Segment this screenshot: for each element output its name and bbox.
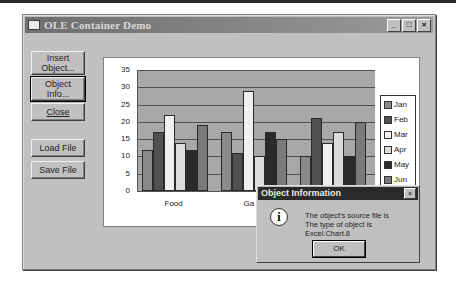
dialog-close-button[interactable]: × [404, 188, 416, 199]
legend-label: Apr [394, 145, 406, 154]
maximize-button[interactable]: □ [402, 19, 416, 32]
insert-object-label-1: Insert [47, 53, 70, 63]
legend-label: Jun [394, 175, 407, 184]
chart-bar [186, 150, 197, 191]
object-info-label-2: Info... [47, 89, 70, 99]
legend-item: Jan [384, 98, 415, 111]
x-category-label: Food [165, 199, 183, 208]
title-bar[interactable]: OLE Container Demo _ □ × [25, 17, 433, 33]
close-label: Close [46, 107, 69, 117]
legend-swatch [384, 146, 392, 154]
chart-bar [265, 132, 276, 191]
y-tick-label: 0 [110, 186, 130, 195]
legend-item: Feb [384, 113, 415, 126]
object-info-label-1: Object [45, 79, 71, 89]
legend-swatch [384, 161, 392, 169]
legend-item: Apr [384, 143, 415, 156]
legend-label: Mar [394, 130, 408, 139]
save-file-button[interactable]: Save File [31, 161, 85, 179]
gridline [138, 87, 375, 88]
chart-bar [221, 132, 232, 191]
legend-item: May [384, 158, 415, 171]
legend-label: May [394, 160, 409, 169]
x-category-label: Ga [244, 199, 255, 208]
gridline [138, 105, 375, 106]
chart-plot-area [137, 70, 375, 192]
dialog-message-line-1: The object's source file is [305, 211, 419, 220]
gridline [138, 70, 375, 71]
load-file-button[interactable]: Load File [31, 139, 85, 157]
close-button[interactable]: Close [31, 103, 85, 121]
dialog-title: Object Information [261, 187, 341, 200]
insert-object-button[interactable]: Insert Object... [31, 51, 85, 75]
chart-bar [322, 143, 333, 191]
dialog-message: The object's source file is The type of … [305, 211, 419, 238]
save-file-label: Save File [39, 165, 77, 175]
y-tick-label: 30 [110, 82, 130, 91]
chart-bar [311, 118, 322, 191]
screen-top-border [0, 0, 456, 3]
chart-legend: JanFebMarAprMayJun [380, 95, 416, 189]
y-tick-label: 15 [110, 134, 130, 143]
chart-bar [232, 153, 243, 191]
chart-bar [243, 91, 254, 191]
minimize-button[interactable]: _ [387, 19, 401, 32]
y-tick-label: 10 [110, 151, 130, 160]
chart-bar [197, 125, 208, 191]
y-tick-label: 20 [110, 117, 130, 126]
y-tick-label: 5 [110, 169, 130, 178]
chart-bar [333, 132, 344, 191]
legend-swatch [384, 176, 392, 184]
insert-object-label-2: Object... [41, 63, 75, 73]
app-icon [28, 20, 40, 30]
chart-bar [276, 139, 287, 191]
legend-label: Feb [394, 115, 408, 124]
chart-bar [175, 143, 186, 191]
dialog-message-line-2: The type of object is Excel.Chart.8 [305, 220, 419, 238]
close-window-button[interactable]: × [417, 19, 431, 32]
y-tick-label: 35 [110, 65, 130, 74]
legend-item: Mar [384, 128, 415, 141]
object-information-dialog: Object Information × i The object's sour… [256, 185, 420, 263]
chart-bar [355, 122, 366, 191]
legend-label: Jan [394, 100, 407, 109]
chart-bar [142, 150, 153, 191]
chart-bar [153, 132, 164, 191]
legend-swatch [384, 131, 392, 139]
load-file-label: Load File [39, 143, 76, 153]
legend-swatch [384, 101, 392, 109]
window-title: OLE Container Demo [44, 19, 151, 31]
info-icon: i [270, 208, 288, 226]
chart-bar [164, 115, 175, 191]
ok-button[interactable]: OK [313, 241, 365, 257]
dialog-title-bar[interactable]: Object Information × [258, 187, 418, 200]
object-info-button[interactable]: Object Info... [31, 77, 85, 101]
legend-swatch [384, 116, 392, 124]
y-tick-label: 25 [110, 100, 130, 109]
